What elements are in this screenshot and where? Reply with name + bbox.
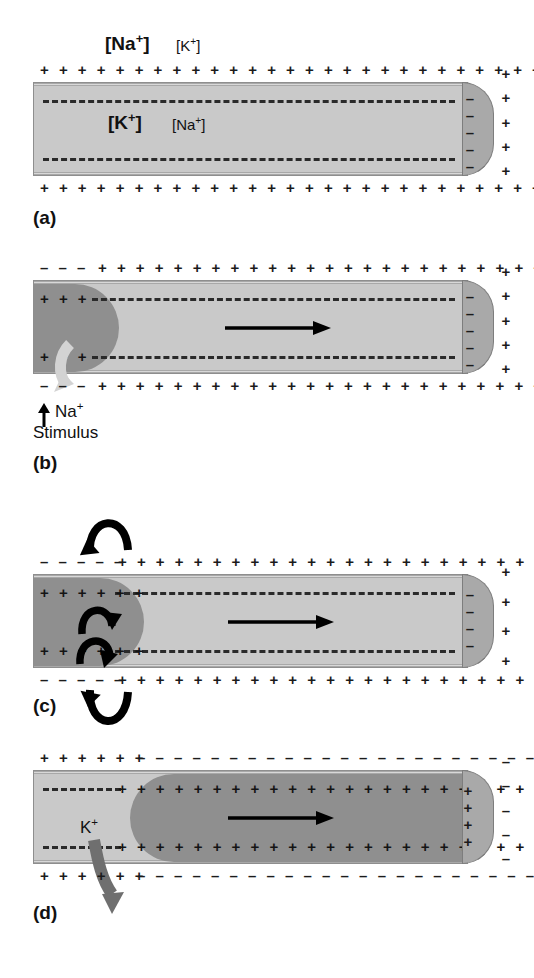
outside-top-charges-c: + + + + + + + + + + + + + + + + + + + + … [118, 554, 534, 569]
panel-b: – – – + + + + + + + + + + + + + + + + + … [0, 240, 534, 480]
label-intracellular-potassium: [K+] [108, 112, 142, 134]
outside-lead-charges-bottom-c: – – – – – [40, 672, 125, 687]
cap-charge: + [502, 564, 511, 579]
cap-charge: – [502, 851, 510, 866]
outside-top-charges-b: + + + + + + + + + + + + + + + + + + + + … [98, 260, 534, 275]
inner-dash-bottom-b [92, 356, 455, 359]
endcap-outer-charges-a: + + + + + [498, 66, 514, 178]
cap-charge: – [466, 288, 474, 305]
inner-dash-top-c [115, 592, 455, 595]
inner-dash-bottom-c [115, 650, 455, 653]
membrane-sheath-top-b [34, 281, 467, 284]
potassium-efflux-label-d: K+ [80, 818, 98, 838]
inner-dash-top-b [92, 298, 455, 301]
stimulus-ion: Na+ [55, 402, 83, 421]
outside-lead-charges-d: + + + + + + [40, 750, 146, 765]
outside-bottom-charges-b: + + + + + + + + + + + + + + + + + + + + … [98, 378, 534, 393]
outside-lead-charges-bottom-b: – – – [40, 378, 88, 393]
endcap-outer-charges-c: + + + + [498, 564, 514, 668]
label-intracellular-sodium: [Na+] [172, 116, 205, 133]
panel-c: – – – – – + + + + + + + + + + + + + + + … [0, 480, 534, 720]
cap-charge: + [502, 264, 511, 279]
cap-charge: – [502, 778, 510, 793]
current-loop-outer-top-c [78, 504, 148, 558]
cap-charge: + [502, 163, 511, 178]
cap-charge: – [466, 305, 474, 322]
cap-charge: + [502, 594, 511, 609]
inner-dash-top-d [43, 788, 121, 791]
cap-charge: + [464, 782, 473, 799]
outside-top-charges-d: – – – – – – – – – – – – – – – – – – – – … [137, 750, 534, 765]
membrane-sheath-bottom-a [34, 172, 467, 175]
panel-label-a: (a) [33, 207, 56, 229]
cap-charge: + [502, 623, 511, 638]
stimulus-label-b: Na+ [55, 402, 83, 422]
outside-top-charges-a: + + + + + + + + + + + + + + + + + + + + … [40, 62, 534, 77]
cap-charge: + [464, 833, 473, 850]
cap-charge: – [466, 90, 474, 107]
cap-charge: + [502, 361, 511, 376]
cap-charge: – [466, 322, 474, 339]
membrane-sheath-top-a [34, 83, 467, 86]
cap-charge: – [466, 637, 474, 654]
cap-charge: + [464, 816, 473, 833]
panel-d: + + + + + + – – – – – – – – – – – – – – … [0, 740, 534, 978]
cap-charge: + [502, 90, 511, 105]
outside-bottom-charges-a: + + + + + + + + + + + + + + + + + + + + … [40, 180, 534, 195]
inside-bottom-charges-b: + + + [40, 349, 90, 364]
cap-charge: – [466, 356, 474, 373]
cap-charge: + [502, 66, 511, 81]
cap-charge: + [502, 313, 511, 328]
cap-charge: – [466, 107, 474, 124]
outside-bottom-charges-d: – – – – – – – – – – – – – – – – – – – – … [137, 868, 534, 883]
cap-charge: – [466, 158, 474, 175]
current-loop-outer-bottom-c [78, 688, 148, 738]
endcap-inner-charges-a: – – – – – [462, 90, 478, 168]
cap-charge: – [466, 141, 474, 158]
outside-lead-charges-c: – – – – – [40, 554, 125, 569]
cap-charge: – [466, 339, 474, 356]
stimulus-caption-b: Stimulus [33, 423, 98, 443]
axon-body-a [33, 82, 468, 176]
cap-charge: + [502, 337, 511, 352]
panel-label-d: (d) [33, 902, 57, 924]
cap-charge: + [464, 799, 473, 816]
endcap-inner-charges-b: – – – – – [462, 288, 478, 366]
cap-charge: – [466, 620, 474, 637]
cap-charge: – [466, 124, 474, 141]
inside-top-charges-c: + + + + + + [40, 585, 146, 600]
cap-charge: + [502, 115, 511, 130]
label-extracellular-potassium: [K+] [176, 37, 200, 54]
axon-body-b [33, 280, 468, 374]
outside-bottom-charges-c: + + + + + + + + + + + + + + + + + + + + … [118, 672, 534, 687]
endcap-outer-charges-b: + + + + + [498, 264, 514, 376]
cap-charge: – [502, 754, 510, 769]
endcap-outer-charges-d: – – – – – [498, 754, 514, 866]
inner-dash-top-a [43, 100, 455, 103]
panel-label-c: (c) [33, 695, 56, 717]
inner-dash-bottom-a [43, 158, 455, 161]
inside-bottom-charges-c: + + + + + + [40, 643, 146, 658]
cap-charge: + [502, 288, 511, 303]
cap-charge: – [502, 803, 510, 818]
potassium-ion: K+ [80, 818, 98, 837]
outside-lead-charges-b: – – – [40, 260, 88, 275]
cap-charge: – [466, 586, 474, 603]
panel-a: [Na+] [K+] + + + + + + + + + + + + + + +… [0, 0, 534, 240]
inside-top-charges-b: + + + [40, 291, 90, 306]
label-extracellular-sodium: [Na+] [105, 33, 150, 55]
panel-label-b: (b) [33, 452, 57, 474]
membrane-sheath-bottom-b [34, 370, 467, 373]
cap-charge: + [502, 139, 511, 154]
inner-dash-bottom-d [43, 846, 121, 849]
endcap-inner-charges-c: – – – – [462, 586, 478, 652]
outside-lead-charges-bottom-d: + + + + + + [40, 868, 146, 883]
cap-charge: – [502, 827, 510, 842]
endcap-inner-charges-d: + + + + [460, 782, 476, 848]
cap-charge: + [502, 653, 511, 668]
cap-charge: – [466, 603, 474, 620]
